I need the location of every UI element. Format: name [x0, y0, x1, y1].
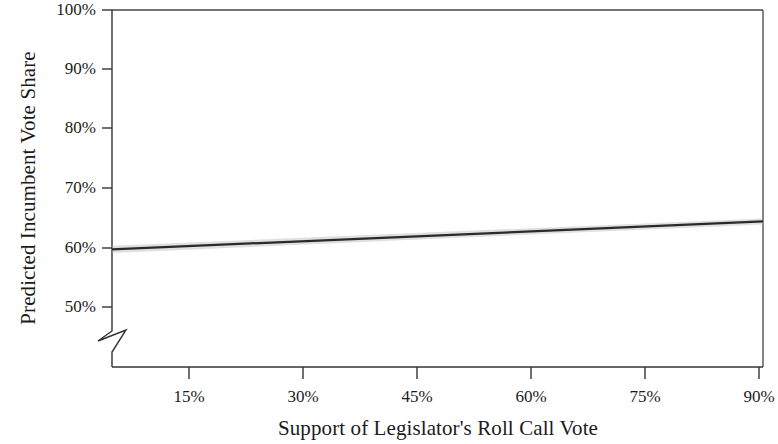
- x-tick-label-90: 90%: [743, 387, 774, 406]
- x-tick-label-75: 75%: [629, 387, 660, 406]
- y-axis-break-icon: [98, 322, 126, 367]
- y-tick-label-90: 90%: [65, 59, 96, 78]
- y-tick-label-70: 70%: [65, 178, 96, 197]
- x-tick-label-30: 30%: [287, 387, 318, 406]
- y-tick-label-100: 100%: [56, 0, 96, 19]
- plot-area: 100% 90% 80% 70% 60% 50% 15% 30% 45% 60%…: [0, 0, 778, 444]
- y-tick-label-50: 50%: [65, 297, 96, 316]
- x-tick-label-60: 60%: [515, 387, 546, 406]
- x-tick-label-15: 15%: [173, 387, 204, 406]
- chart-figure: Predicted Incumbent Vote Share Support o…: [0, 0, 778, 444]
- y-tick-label-80: 80%: [65, 118, 96, 137]
- x-tick-label-45: 45%: [401, 387, 432, 406]
- trend-line: [112, 221, 763, 249]
- y-tick-label-60: 60%: [65, 238, 96, 257]
